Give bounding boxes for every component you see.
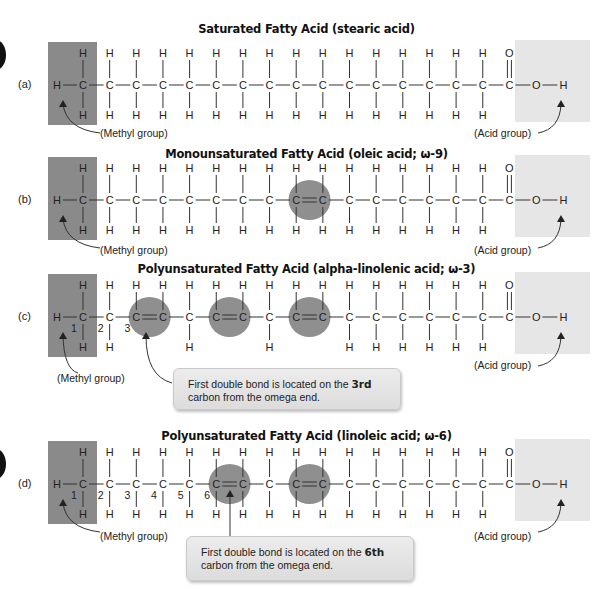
hydrogen-atom: H xyxy=(239,446,247,458)
hydrogen-atom: H xyxy=(212,508,220,520)
hydrogen-atom: H xyxy=(239,508,247,520)
hydrogen-atom: H xyxy=(132,109,140,121)
hydrogen-atom: H xyxy=(132,47,140,59)
hydrogen-atom: H xyxy=(399,341,407,353)
row-d-acid-label: (Acid group) xyxy=(474,530,531,542)
row-c-callout: First double bond is located on the 3rd … xyxy=(173,368,401,410)
hydrogen-atom: H xyxy=(372,109,380,121)
hydrogen-atom: H xyxy=(346,446,354,458)
callout-emphasis: 3rd xyxy=(351,378,371,390)
carbon-atom: C xyxy=(159,194,167,206)
hydrogen-atom: H xyxy=(53,311,61,323)
oxygen-atom: O xyxy=(532,311,541,323)
callout-arrow xyxy=(146,336,172,383)
hydrogen-atom: H xyxy=(79,162,87,174)
hydrogen-atom: H xyxy=(159,109,167,121)
hydrogen-atom: H xyxy=(292,47,300,59)
hydrogen-atom: H xyxy=(239,279,247,291)
carbon-atom: C xyxy=(159,478,167,490)
hydrogen-atom: H xyxy=(186,162,194,174)
hydrogen-atom: H xyxy=(186,47,194,59)
carbon-atom: C xyxy=(346,79,354,91)
carbon-atom: C xyxy=(425,478,433,490)
hydrogen-atom: H xyxy=(239,224,247,236)
hydrogen-atom: H xyxy=(479,162,487,174)
hydrogen-atom: H xyxy=(399,446,407,458)
carbon-atom: C xyxy=(452,478,460,490)
hydrogen-atom: H xyxy=(239,109,247,121)
hydrogen-atom: H xyxy=(292,224,300,236)
hydrogen-atom: H xyxy=(79,109,87,121)
carbon-atom: C xyxy=(372,194,380,206)
hydrogen-atom: H xyxy=(452,109,460,121)
carbon-atom: C xyxy=(266,311,274,323)
hydrogen-atom: H xyxy=(479,279,487,291)
hydrogen-atom: H xyxy=(159,279,167,291)
hydrogen-atom: H xyxy=(479,47,487,59)
hydrogen-atom: H xyxy=(399,47,407,59)
carbon-atom: C xyxy=(452,311,460,323)
carbon-atom: C xyxy=(346,311,354,323)
hydrogen-atom: H xyxy=(266,508,274,520)
carbon-atom: C xyxy=(372,311,380,323)
hydrogen-atom: H xyxy=(79,47,87,59)
hydrogen-atom: H xyxy=(399,109,407,121)
hydrogen-atom: H xyxy=(239,162,247,174)
hydrogen-atom: H xyxy=(319,446,327,458)
hydrogen-atom: H xyxy=(346,47,354,59)
row-a-acid-label: (Acid group) xyxy=(474,127,531,139)
hydrogen-atom: H xyxy=(399,508,407,520)
carbon-atom: C xyxy=(239,311,247,323)
carbon-atom: C xyxy=(266,478,274,490)
carbon-atom: C xyxy=(479,311,487,323)
carbon-atom: C xyxy=(106,478,114,490)
hydrogen-atom: H xyxy=(479,446,487,458)
hydrogen-atom: H xyxy=(452,446,460,458)
hydrogen-atom: H xyxy=(319,508,327,520)
hydrogen-atom: H xyxy=(425,341,433,353)
hydrogen-atom: H xyxy=(399,279,407,291)
carbon-atom: C xyxy=(479,194,487,206)
acid-group-box xyxy=(515,439,590,521)
hydrogen-atom: H xyxy=(266,162,274,174)
carbon-atom: C xyxy=(479,478,487,490)
oxygen-atom: O xyxy=(505,279,514,291)
hydrogen-atom: H xyxy=(346,279,354,291)
oxygen-atom: O xyxy=(532,79,541,91)
carbon-atom: C xyxy=(79,478,87,490)
hydrogen-atom: H xyxy=(425,279,433,291)
carbon-atom: C xyxy=(186,478,194,490)
hydrogen-atom: H xyxy=(79,279,87,291)
carbon-atom: C xyxy=(212,311,220,323)
callout-text: carbon from the omega end. xyxy=(201,559,333,571)
hydrogen-atom: H xyxy=(372,508,380,520)
carbon-atom: C xyxy=(106,79,114,91)
carbon-atom: C xyxy=(452,194,460,206)
hydrogen-atom: H xyxy=(212,47,220,59)
carbon-atom: C xyxy=(399,79,407,91)
oxygen-atom: O xyxy=(505,162,514,174)
hydrogen-atom: H xyxy=(346,508,354,520)
hydrogen-atom: H xyxy=(372,162,380,174)
hydrogen-atom: H xyxy=(79,446,87,458)
hydrogen-atom: H xyxy=(479,224,487,236)
hydrogen-atom: H xyxy=(53,478,61,490)
carbon-atom: C xyxy=(79,311,87,323)
hydrogen-atom: H xyxy=(53,194,61,206)
row-b-methyl-label: (Methyl group) xyxy=(100,244,168,256)
carbon-atom: C xyxy=(239,194,247,206)
hydrogen-atom: H xyxy=(346,341,354,353)
carbon-number: 2 xyxy=(98,322,104,334)
hydrogen-atom: H xyxy=(159,47,167,59)
carbon-number: 1 xyxy=(71,322,77,334)
hydrogen-atom: H xyxy=(452,47,460,59)
hydrogen-atom: H xyxy=(372,279,380,291)
carbon-atom: C xyxy=(186,311,194,323)
carbon-atom: C xyxy=(106,194,114,206)
hydrogen-atom: H xyxy=(559,194,567,206)
hydrogen-atom: H xyxy=(159,446,167,458)
hydrogen-atom: H xyxy=(479,341,487,353)
oxygen-atom: O xyxy=(505,446,514,458)
carbon-atom: C xyxy=(425,311,433,323)
hydrogen-atom: H xyxy=(79,341,87,353)
